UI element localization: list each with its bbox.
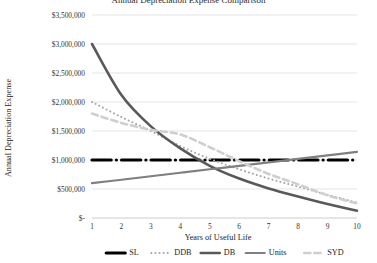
legend-label: SL (129, 248, 139, 257)
x-tick-label: 7 (267, 222, 271, 231)
x-axis-title: Years of Useful Life (185, 233, 252, 242)
gridlines-group (92, 15, 357, 218)
y-axis-title: Annual Depreciation Expense (4, 79, 13, 178)
legend-label: Units (269, 248, 287, 257)
legend-item-syd[interactable]: SYD (304, 248, 343, 257)
x-axis-tick-labels: 12345678910 (90, 222, 361, 231)
legend-item-units[interactable]: Units (246, 248, 287, 257)
series-lines-group (92, 44, 357, 211)
x-tick-label: 4 (178, 222, 182, 231)
legend-item-ddb[interactable]: DDB (151, 248, 192, 257)
series-line-units (92, 152, 357, 183)
legend-label: SYD (327, 248, 343, 257)
x-tick-label: 9 (326, 222, 330, 231)
x-tick-label: 10 (353, 222, 361, 231)
y-tick-label: $- (79, 214, 86, 223)
x-tick-label: 3 (149, 222, 153, 231)
x-tick-label: 2 (120, 222, 124, 231)
legend-item-sl[interactable]: SL (106, 248, 139, 257)
y-tick-label: $2,000,000 (52, 98, 86, 107)
legend-label: DDB (174, 248, 192, 257)
y-tick-label: $1,500,000 (52, 127, 86, 136)
y-tick-label: $3,500,000 (52, 11, 86, 20)
y-tick-label: $500,000 (57, 185, 85, 194)
depreciation-line-chart: Annual Depreciation Expense Comparison $… (0, 0, 377, 263)
y-tick-label: $3,000,000 (52, 40, 86, 49)
y-tick-label: $1,000,000 (52, 156, 86, 165)
chart-canvas: $3,500,000$3,000,000$2,500,000$2,000,000… (0, 0, 377, 263)
y-axis-tick-labels: $3,500,000$3,000,000$2,500,000$2,000,000… (52, 11, 86, 223)
x-tick-label: 6 (237, 222, 241, 231)
legend-label: DB (224, 248, 236, 257)
x-tick-label: 1 (90, 222, 94, 231)
x-tick-label: 8 (296, 222, 300, 231)
series-line-ddb (92, 102, 357, 203)
y-tick-label: $2,500,000 (52, 69, 86, 78)
series-line-db (92, 44, 357, 211)
x-tick-label: 5 (208, 222, 212, 231)
legend-item-db[interactable]: DB (201, 248, 236, 257)
chart-legend: SLDDBDBUnitsSYD (106, 248, 343, 257)
